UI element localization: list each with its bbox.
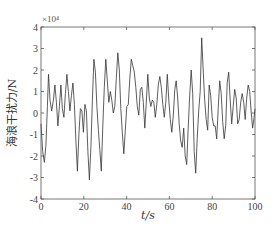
y-tick-label: -1 bbox=[30, 129, 38, 140]
y-tick-label: -2 bbox=[30, 151, 38, 162]
y-tick-label: 0 bbox=[33, 108, 38, 119]
y-tick-label: -3 bbox=[30, 172, 38, 183]
y-tick-label: 4 bbox=[33, 22, 38, 33]
x-tick-label: 40 bbox=[122, 201, 132, 212]
y-tick-label: -4 bbox=[30, 194, 38, 205]
plot-background bbox=[41, 27, 255, 199]
x-axis-title: t/s bbox=[141, 209, 155, 222]
x-tick-label: 0 bbox=[39, 201, 44, 212]
y-tick-label: 1 bbox=[33, 86, 38, 97]
x-tick-label: 60 bbox=[164, 201, 174, 212]
y-tick-label: 3 bbox=[33, 43, 38, 54]
x-tick-label: 80 bbox=[207, 201, 217, 212]
y-multiplier: ×10⁴ bbox=[42, 14, 59, 24]
y-tick-labels: -4-3-2-101234 bbox=[30, 22, 38, 205]
x-tick-label: 20 bbox=[79, 201, 89, 212]
x-tick-label: 100 bbox=[248, 201, 263, 212]
y-tick-label: 2 bbox=[33, 65, 38, 76]
chart: 020406080100 -4-3-2-101234 ×10⁴ t/s 海浪干扰… bbox=[0, 0, 276, 229]
y-axis-title: 海浪干扰力/N bbox=[5, 78, 19, 147]
